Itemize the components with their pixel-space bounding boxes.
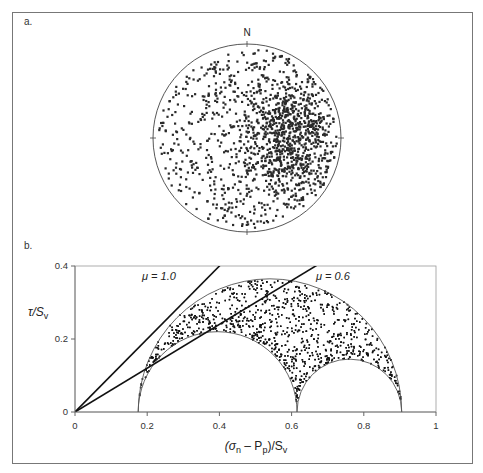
xtick-0-4: 0.4 [213,420,226,431]
panel-b-label: b. [24,240,32,251]
xtick-1: 1 [433,420,438,431]
figure-frame [13,13,473,464]
ytick-0-4: 0.4 [55,260,68,271]
x-axis-label: (σn – Pp)/Sv [225,439,288,455]
ytick-0-2: 0.2 [55,333,68,344]
annotation-mu-1: μ = 1.0 [141,270,177,282]
xtick-0-2: 0.2 [141,420,154,431]
ytick-0: 0 [63,406,68,417]
north-label: N [243,27,250,38]
xtick-0: 0 [72,420,77,431]
figure: a. N b. μ = 1.0 μ = 0.6 0.4 0.2 [0,0,483,473]
xtick-0-6: 0.6 [285,420,298,431]
panel-a-label: a. [24,16,32,27]
xtick-0-8: 0.8 [357,420,370,431]
annotation-mu-0-6: μ = 0.6 [315,270,351,282]
